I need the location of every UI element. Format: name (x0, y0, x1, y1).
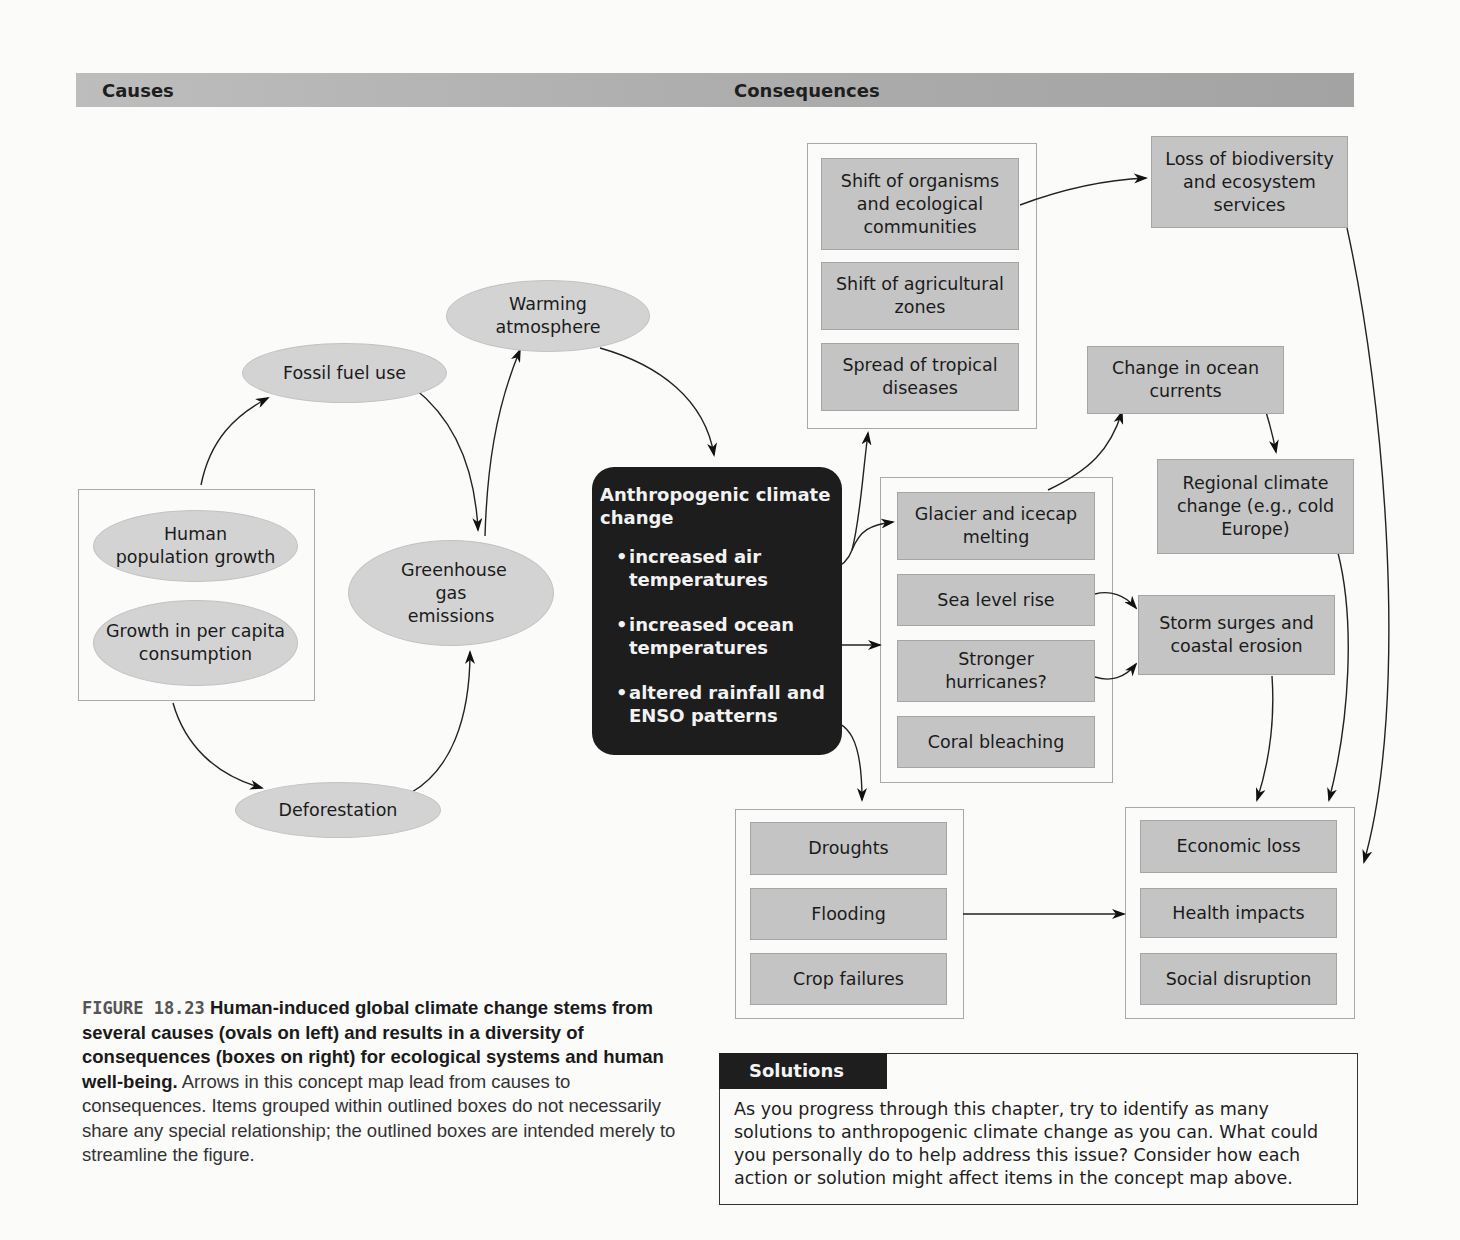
social-disruption-label: Social disruption (1166, 968, 1311, 991)
flooding-box: Flooding (750, 888, 947, 940)
deforestation-label: Deforestation (279, 799, 398, 822)
droughts-box: Droughts (750, 822, 947, 875)
warming-atmosphere-oval: Warming atmosphere (446, 280, 650, 352)
bullet-rainfall-text: altered rainfall and ENSO patterns (614, 681, 834, 727)
causes-heading: Causes (102, 80, 174, 101)
consequences-heading: Consequences (734, 80, 880, 101)
greenhouse-gas-emissions-oval: Greenhouse gas emissions (348, 540, 554, 646)
coral-bleaching-box: Coral bleaching (897, 716, 1095, 768)
figure-caption: FIGURE 18.23 Human-induced global climat… (82, 996, 682, 1168)
fossil-fuel-use-oval: Fossil fuel use (242, 343, 447, 403)
central-bullet-air: • increased air temperatures (600, 545, 834, 591)
fossil-fuel-use-label: Fossil fuel use (283, 362, 406, 385)
change-ocean-currents-label: Change in ocean currents (1106, 357, 1266, 403)
solutions-box: Solutions As you progress through this c… (719, 1053, 1358, 1205)
growth-per-capita-consumption-label: Growth in per capita consumption (106, 620, 286, 666)
flooding-label: Flooding (811, 903, 886, 926)
crop-failures-box: Crop failures (750, 953, 947, 1005)
solutions-label: Solutions (719, 1053, 887, 1089)
health-impacts-box: Health impacts (1140, 888, 1337, 938)
spread-tropical-diseases-label: Spread of tropical diseases (833, 354, 1008, 400)
bullet-icon: • (616, 613, 628, 636)
shift-organisms-label: Shift of organisms and ecological commun… (835, 170, 1005, 239)
sea-level-rise-box: Sea level rise (897, 574, 1095, 626)
shift-organisms-box: Shift of organisms and ecological commun… (821, 158, 1019, 250)
bullet-ocean-text: increased ocean temperatures (614, 613, 804, 659)
regional-climate-change-label: Regional climate change (e.g., cold Euro… (1168, 472, 1343, 541)
human-population-growth-oval: Human population growth (93, 510, 298, 582)
shift-agricultural-zones-box: Shift of agricultural zones (821, 262, 1019, 330)
storm-surges-label: Storm surges and coastal erosion (1149, 612, 1324, 658)
spread-tropical-diseases-box: Spread of tropical diseases (821, 343, 1019, 411)
regional-climate-change-box: Regional climate change (e.g., cold Euro… (1157, 459, 1354, 554)
glacier-icecap-melting-label: Glacier and icecap melting (909, 503, 1084, 549)
stronger-hurricanes-label: Stronger hurricanes? (941, 648, 1051, 694)
loss-biodiversity-box: Loss of biodiversity and ecosystem servi… (1151, 136, 1348, 228)
economic-loss-box: Economic loss (1140, 820, 1337, 873)
social-disruption-box: Social disruption (1140, 953, 1337, 1005)
human-population-growth-label: Human population growth (116, 523, 276, 569)
warming-atmosphere-label: Warming atmosphere (493, 293, 603, 339)
central-bullet-rainfall: • altered rainfall and ENSO patterns (600, 681, 834, 727)
stronger-hurricanes-box: Stronger hurricanes? (897, 640, 1095, 702)
glacier-icecap-melting-box: Glacier and icecap melting (897, 492, 1095, 560)
bullet-icon: • (616, 545, 628, 568)
bullet-icon: • (616, 681, 628, 704)
crop-failures-label: Crop failures (793, 968, 904, 991)
header-bar: Causes Consequences (76, 73, 1354, 107)
deforestation-oval: Deforestation (235, 782, 441, 838)
coral-bleaching-label: Coral bleaching (928, 731, 1065, 754)
sea-level-rise-label: Sea level rise (937, 589, 1054, 612)
figure-number: FIGURE 18.23 (82, 998, 205, 1018)
loss-biodiversity-label: Loss of biodiversity and ecosystem servi… (1160, 148, 1340, 217)
health-impacts-label: Health impacts (1172, 902, 1304, 925)
droughts-label: Droughts (808, 837, 888, 860)
central-bullet-ocean: • increased ocean temperatures (600, 613, 834, 659)
change-ocean-currents-box: Change in ocean currents (1087, 346, 1284, 414)
anthropogenic-climate-change-box: Anthropogenic climate change • increased… (592, 467, 842, 755)
central-title: Anthropogenic climate change (600, 483, 834, 529)
economic-loss-label: Economic loss (1176, 835, 1300, 858)
greenhouse-gas-emissions-label: Greenhouse gas emissions (401, 559, 501, 628)
bullet-air-text: increased air temperatures (614, 545, 779, 591)
shift-agricultural-zones-label: Shift of agricultural zones (828, 273, 1013, 319)
solutions-text: As you progress through this chapter, tr… (734, 1098, 1346, 1190)
storm-surges-box: Storm surges and coastal erosion (1138, 595, 1335, 675)
growth-per-capita-consumption-oval: Growth in per capita consumption (93, 600, 298, 686)
